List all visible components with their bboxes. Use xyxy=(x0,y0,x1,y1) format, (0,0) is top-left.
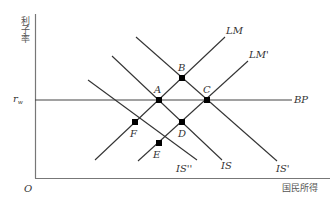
point-a xyxy=(156,97,162,103)
lm-prime-curve xyxy=(138,61,248,161)
label-a: A xyxy=(153,84,161,95)
label-lm: LM xyxy=(225,25,244,36)
point-d xyxy=(179,119,185,125)
is-curve xyxy=(112,56,222,160)
label-is-prime: IS' xyxy=(275,163,290,174)
is-lm-bp-diagram: A B C D E F LM LM' BP IS'' IS IS' O rw 国… xyxy=(0,0,333,203)
y-axis-label: 利子率 xyxy=(20,15,30,44)
origin-label: O xyxy=(24,183,32,194)
label-is-double-prime: IS'' xyxy=(175,163,192,174)
label-is: IS xyxy=(220,160,232,171)
point-c xyxy=(204,97,210,103)
label-bp: BP xyxy=(293,94,308,105)
label-f: F xyxy=(129,128,138,139)
rate-r-label: rw xyxy=(13,93,24,105)
label-lm-prime: LM' xyxy=(248,49,269,60)
label-c: C xyxy=(203,84,211,95)
label-e: E xyxy=(152,149,161,160)
label-d: D xyxy=(177,128,186,139)
point-e xyxy=(156,140,162,146)
point-f xyxy=(132,119,138,125)
x-axis-label: 国民所得 xyxy=(282,182,318,193)
rate-subscript: w xyxy=(18,98,24,105)
point-b xyxy=(179,75,185,81)
label-b: B xyxy=(177,62,185,73)
